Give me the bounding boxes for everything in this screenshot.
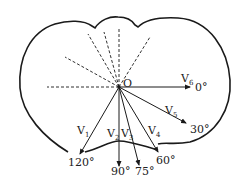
vector-v4-label: V4: [147, 124, 161, 139]
angle-label-60: 60°: [156, 154, 176, 167]
angle-label-120: 120°: [68, 156, 95, 169]
vector-v5-label: V5: [164, 104, 177, 119]
vector-v2-label: V2: [106, 127, 119, 142]
angle-label-75: 75°: [135, 165, 155, 178]
origin-label: O: [123, 77, 132, 90]
vector-v3-label: V3: [120, 127, 133, 142]
vector-v3-arrow: [119, 87, 139, 165]
angle-label-30: 30°: [190, 123, 210, 136]
vector-v1-label: V1: [76, 124, 89, 139]
vector-v1-arrow: [80, 87, 119, 154]
angle-label-0: 0°: [195, 81, 208, 94]
angle-label-90: 90°: [111, 165, 131, 178]
vector-diagram: O V1 V2 V3 V4 V5 V6 120° 90° 75° 60° 30°…: [0, 0, 248, 187]
vector-v6-label: V6: [180, 72, 194, 87]
dashed-reference-lines: [47, 28, 150, 87]
body-outline-bottom: [85, 141, 158, 152]
